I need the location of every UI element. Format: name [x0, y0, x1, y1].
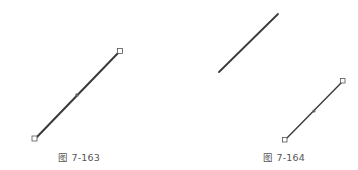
figure-caption-7-163: 图 7-163 — [58, 150, 100, 164]
original-line[interactable] — [219, 14, 278, 72]
figure-7-164 — [219, 14, 345, 142]
midpoint-handle-icon[interactable] — [312, 109, 315, 112]
figure-caption-7-164: 图 7-164 — [263, 150, 305, 164]
midpoint-handle-icon[interactable] — [75, 93, 79, 97]
drawing-canvas — [0, 0, 358, 170]
end-handle-icon[interactable] — [341, 79, 346, 84]
figure-7-163 — [32, 49, 123, 142]
start-handle-icon[interactable] — [32, 136, 37, 141]
start-handle-icon[interactable] — [283, 138, 288, 143]
end-handle-icon[interactable] — [118, 49, 123, 54]
